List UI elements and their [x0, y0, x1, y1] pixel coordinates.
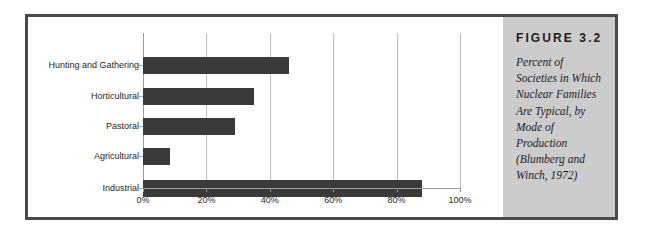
value-tick-label-0: 0%: [123, 195, 163, 205]
value-tick-label-60: 60%: [313, 195, 353, 205]
figure-frame: Hunting and Gathering Horticultural Past…: [25, 14, 618, 220]
bar-chart: Hunting and Gathering Horticultural Past…: [28, 17, 503, 217]
value-tick-100: [460, 188, 461, 192]
plot-area: [143, 33, 460, 188]
gridline-60: [333, 33, 334, 188]
value-tick-40: [270, 188, 271, 192]
category-label-industrial: Industrial: [27, 183, 139, 194]
value-tick-label-20: 20%: [186, 195, 226, 205]
category-label-hunting-and-gathering: Hunting and Gathering: [27, 60, 139, 71]
category-label-agricultural: Agricultural: [27, 151, 139, 162]
value-tick-label-40: 40%: [250, 195, 290, 205]
figure-caption-panel: FIGURE 3.2 Percent of Societies in Which…: [503, 17, 615, 217]
gridline-100: [460, 33, 461, 188]
category-label-horticultural: Horticultural: [27, 91, 139, 102]
figure-number-label: FIGURE 3.2: [516, 31, 605, 45]
gridline-80: [397, 33, 398, 188]
value-axis-line: [143, 188, 461, 189]
value-tick-label-80: 80%: [377, 195, 417, 205]
category-label-pastoral: Pastoral: [27, 121, 139, 132]
value-tick-60: [333, 188, 334, 192]
value-tick-label-100: 100%: [440, 195, 480, 205]
category-axis: Hunting and Gathering Horticultural Past…: [28, 17, 139, 217]
bar-horticultural: [143, 88, 254, 105]
bar-pastoral: [143, 118, 235, 135]
bar-agricultural: [143, 148, 170, 165]
value-tick-20: [206, 188, 207, 192]
figure-caption-text: Percent of Societies in Which Nuclear Fa…: [516, 54, 605, 184]
bar-hunting-and-gathering: [143, 57, 289, 74]
value-tick-80: [397, 188, 398, 192]
value-tick-0: [143, 188, 144, 192]
